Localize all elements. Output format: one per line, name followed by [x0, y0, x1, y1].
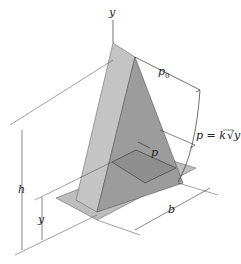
pressure-equation: p = k√y	[196, 129, 241, 142]
h-label: h	[18, 183, 25, 196]
h-ext-bottom	[15, 215, 97, 255]
p0-label: p0	[158, 65, 170, 80]
y-dim-label: y	[37, 213, 45, 226]
b-ext-right	[178, 183, 218, 195]
triangular-plate-diagram: y p0 p = k√y p h y b	[0, 0, 241, 264]
b-label: b	[168, 203, 175, 216]
b-ext-left	[97, 220, 140, 235]
y-axis-label: y	[108, 6, 116, 19]
p-inner-label: p	[151, 146, 158, 159]
